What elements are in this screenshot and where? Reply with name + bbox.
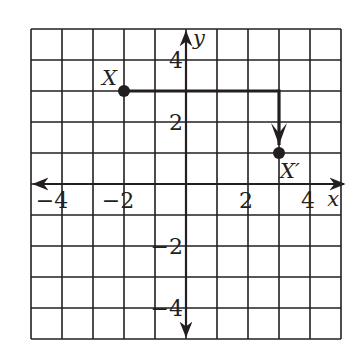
x-tick-label: −4 xyxy=(36,188,68,213)
translation-path xyxy=(124,90,287,146)
point-X-prime xyxy=(273,147,285,159)
x-tick-label: 4 xyxy=(301,188,315,213)
x-axis-label: x xyxy=(327,187,339,211)
axes xyxy=(34,32,344,336)
point-label-X: X xyxy=(100,66,118,90)
y-axis-label: y xyxy=(192,26,206,50)
y-tick-label: 2 xyxy=(169,110,183,135)
x-tick-label: 2 xyxy=(239,188,253,213)
x-tick-label: −2 xyxy=(102,188,134,213)
y-tick-label: 4 xyxy=(169,48,183,73)
point-label-X-prime: X′ xyxy=(278,159,300,183)
point-X xyxy=(118,85,130,97)
y-tick-label: −2 xyxy=(151,234,183,259)
coordinate-grid: XX′xy−4−22442−2−4 xyxy=(0,0,353,357)
y-tick-label: −4 xyxy=(151,296,183,321)
